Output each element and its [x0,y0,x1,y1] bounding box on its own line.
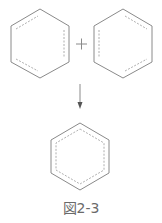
arrow-down-icon [78,84,83,109]
figure-caption: 図2-3 [0,197,162,217]
kekule-structure-a [11,9,69,78]
kekule-structure-b [94,9,152,78]
benzene-resonance-diagram [0,0,162,223]
plus-icon [76,39,87,50]
resonance-hybrid [51,123,109,190]
